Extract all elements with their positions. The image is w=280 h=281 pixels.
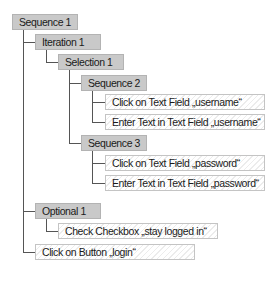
node-enter-password[interactable]: Enter Text in Text Field „password“ bbox=[105, 175, 265, 191]
connector-line bbox=[23, 211, 35, 212]
node-click-password[interactable]: Click on Text Field „password“ bbox=[105, 155, 265, 171]
connector-line bbox=[92, 151, 93, 183]
connector-line bbox=[92, 91, 93, 122]
node-sequence-3[interactable]: Sequence 3 bbox=[81, 135, 147, 151]
node-optional-1[interactable]: Optional 1 bbox=[35, 203, 101, 219]
connector-line bbox=[92, 163, 105, 164]
connector-line bbox=[92, 122, 105, 123]
node-iteration-1[interactable]: Iteration 1 bbox=[35, 34, 101, 50]
node-click-username[interactable]: Click on Text Field „username“ bbox=[105, 94, 265, 110]
connector-line bbox=[69, 83, 81, 84]
connector-line bbox=[23, 30, 24, 252]
connector-line bbox=[69, 143, 81, 144]
connector-line bbox=[23, 42, 35, 43]
node-check-checkbox[interactable]: Check Checkbox „stay logged in“ bbox=[58, 223, 218, 239]
connector-line bbox=[46, 219, 47, 231]
node-sequence-1[interactable]: Sequence 1 bbox=[12, 14, 78, 30]
connector-line bbox=[46, 50, 47, 62]
connector-line bbox=[46, 231, 58, 232]
connector-line bbox=[23, 252, 35, 253]
connector-line bbox=[69, 70, 70, 143]
connector-line bbox=[46, 62, 58, 63]
node-click-login[interactable]: Click on Button „login“ bbox=[35, 244, 195, 260]
connector-line bbox=[92, 183, 105, 184]
node-enter-username[interactable]: Enter Text in Text Field „username“ bbox=[105, 114, 265, 130]
connector-line bbox=[92, 102, 105, 103]
node-selection-1[interactable]: Selection 1 bbox=[58, 54, 124, 70]
node-sequence-2[interactable]: Sequence 2 bbox=[81, 75, 147, 91]
